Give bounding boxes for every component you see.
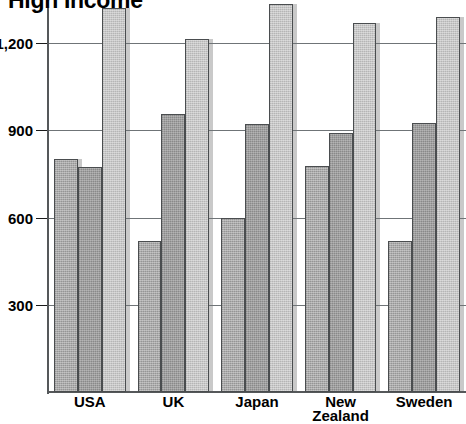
y-tick-1200 [36, 43, 47, 44]
bar-new-zealand-series-1 [305, 166, 329, 392]
y-axis-labels: 3006009001,200 [0, 0, 33, 420]
bar-usa-series-2 [78, 167, 102, 392]
bar-uk-series-1 [138, 241, 162, 392]
bar-uk-series-2 [161, 114, 185, 392]
bar-sweden-series-2 [412, 123, 436, 392]
x-axis-label-uk: UK [163, 395, 185, 409]
bar-usa-series-1 [54, 159, 78, 392]
y-tick-900 [36, 130, 47, 131]
y-tick-label-1200: 1,200 [0, 35, 33, 52]
bar-japan-series-2 [245, 124, 269, 392]
bar-japan-series-3 [269, 4, 293, 392]
y-tick-label-300: 300 [8, 296, 33, 313]
y-tick-label-600: 600 [8, 209, 33, 226]
bar-new-zealand-series-3 [353, 23, 377, 392]
bar-sweden-series-1 [388, 241, 412, 392]
x-axis-label-japan: Japan [235, 395, 278, 409]
bar-uk-series-3 [185, 39, 209, 392]
bar-new-zealand-series-2 [329, 133, 353, 392]
x-axis-labels: USAUKJapanNewZealandSweden [48, 393, 466, 420]
bar-sweden-series-3 [436, 17, 460, 392]
y-tick-label-900: 900 [8, 122, 33, 139]
bars-layer [48, 0, 466, 392]
y-tick-600 [36, 218, 47, 219]
bar-usa-series-3 [102, 8, 126, 392]
x-axis-label-sweden: Sweden [396, 395, 453, 409]
x-axis-label-new-zealand: NewZealand [312, 395, 369, 423]
y-tick-300 [36, 305, 47, 306]
bar-japan-series-1 [221, 218, 245, 392]
x-axis-label-usa: USA [74, 395, 106, 409]
